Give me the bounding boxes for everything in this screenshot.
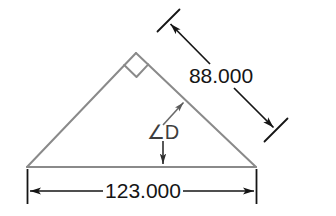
triangle-left-edge — [27, 53, 136, 167]
base-dimension-group: 123.000 — [28, 169, 257, 204]
angle-callout-group: ∠D — [147, 103, 184, 165]
right-angle-marker-icon — [124, 64, 148, 77]
drawing-canvas: 123.000 88.000 ∠D — [0, 0, 336, 216]
hypotenuse-dimension-label: 88.000 — [189, 64, 253, 87]
angle-label: ∠D — [147, 121, 179, 143]
technical-drawing: 123.000 88.000 ∠D — [0, 0, 336, 216]
hypotenuse-dimension-line-upper-segment — [171, 24, 211, 64]
hypotenuse-dimension-line-lower-segment — [234, 88, 274, 128]
base-dimension-label: 123.000 — [105, 179, 181, 202]
hypotenuse-extension-tick-upper — [158, 10, 180, 32]
